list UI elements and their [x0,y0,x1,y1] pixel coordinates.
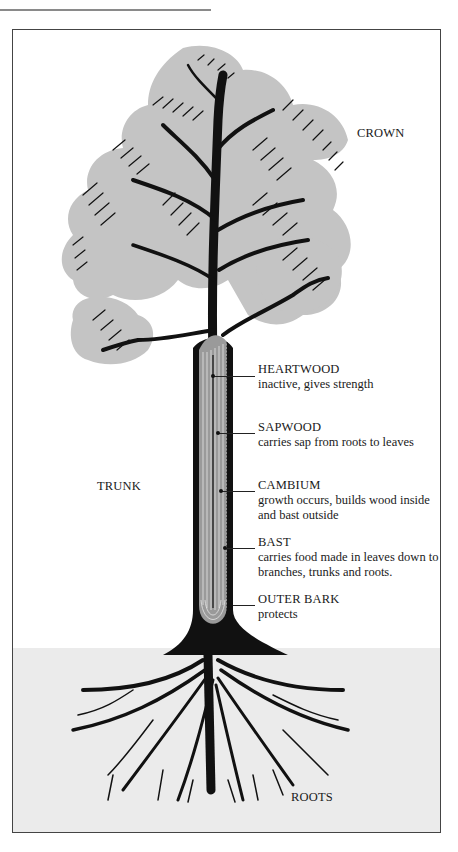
roots-label-text: ROOTS [291,790,333,805]
bast-leader-line [225,548,255,549]
crown-label: CROWN [357,126,405,141]
outer-bark-description: protects [258,607,340,622]
cambium-description-line2: and bast outside [258,508,430,523]
crown-foliage [62,46,351,365]
crown-label-text: CROWN [357,126,405,141]
cambium-title: CAMBIUM [258,478,430,493]
roots [73,655,348,802]
bast-description-line2: branches, trunks and roots. [258,565,439,580]
diagram-frame: CROWN TRUNK ROOTS HEARTWOOD inactive, gi… [12,29,441,833]
bast-description: carries food made in leaves down to [258,550,439,565]
heartwood-title: HEARTWOOD [258,362,374,377]
cambium-leader-line [221,491,255,492]
heartwood-description: inactive, gives strength [258,377,374,392]
heartwood-label: HEARTWOOD inactive, gives strength [258,362,374,392]
trunk-label: TRUNK [97,479,141,494]
outer-bark-title: OUTER BARK [258,592,340,607]
outer-bark-leader-line [231,605,255,606]
sapwood-leader-line [218,433,255,434]
sapwood-description: carries sap from roots to leaves [258,435,414,450]
cambium-label: CAMBIUM growth occurs, builds wood insid… [258,478,430,523]
heartwood-leader-line [213,376,255,377]
cambium-description: growth occurs, builds wood inside [258,493,430,508]
roots-label: ROOTS [291,790,333,805]
bast-label: BAST carries food made in leaves down to… [258,535,439,580]
outer-bark-label: OUTER BARK protects [258,592,340,622]
sapwood-title: SAPWOOD [258,420,414,435]
bast-title: BAST [258,535,439,550]
trunk-label-text: TRUNK [97,479,141,494]
top-rule-divider [0,9,211,11]
sapwood-label: SAPWOOD carries sap from roots to leaves [258,420,414,450]
